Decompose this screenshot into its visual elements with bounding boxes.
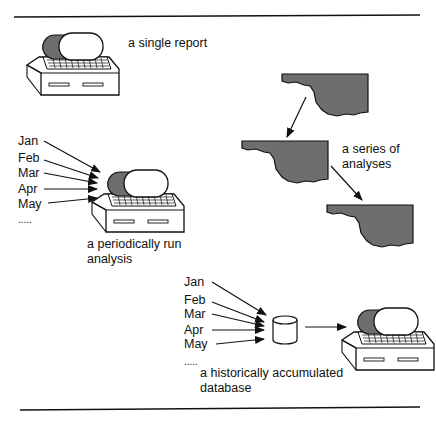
- input-label-jan: Jan: [184, 275, 204, 290]
- caption-historic-line1: a historically accumulated: [200, 366, 343, 381]
- computer-icon: [342, 308, 434, 370]
- bottom-rule: [20, 407, 420, 410]
- input-label-mar: Mar: [184, 307, 206, 322]
- top-rule: [14, 15, 420, 17]
- diagram-canvas: [0, 0, 436, 421]
- input-label-feb: Feb: [18, 151, 40, 166]
- computer-icon: [92, 170, 184, 232]
- input-label-apr: Apr: [184, 323, 203, 338]
- computer-icon: [27, 33, 119, 95]
- input-label-apr: Apr: [18, 182, 37, 197]
- database-cylinder-icon: [273, 316, 297, 344]
- caption-single-report: a single report: [128, 36, 207, 51]
- input-label-jan: Jan: [18, 134, 38, 149]
- input-label-ellipsis: .....: [184, 354, 198, 369]
- input-label-may: May: [184, 337, 208, 352]
- caption-periodic-line2: analysis: [87, 252, 132, 267]
- input-label-may: May: [18, 197, 42, 212]
- caption-periodic-line1: a periodically run: [87, 237, 182, 252]
- arrow-icon: [44, 141, 100, 203]
- map-shape-icon: [242, 141, 328, 183]
- caption-series-line2: analyses: [342, 157, 391, 172]
- input-label-feb: Feb: [184, 293, 206, 308]
- input-label-mar: Mar: [18, 166, 40, 181]
- map-shape-icon: [327, 205, 413, 247]
- caption-historic-line2: database: [200, 381, 251, 396]
- caption-series-line1: a series of: [342, 142, 400, 157]
- input-label-ellipsis: .....: [18, 212, 32, 227]
- map-shape-icon: [282, 74, 368, 116]
